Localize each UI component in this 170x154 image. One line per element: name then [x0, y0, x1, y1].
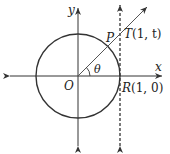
unit-circle-diagram: y x O P θ T(1, t) R(1, 0) — [0, 0, 170, 154]
angle-theta-label: θ — [94, 63, 101, 76]
point-r-label: R(1, 0) — [121, 81, 163, 95]
point-t-label: T(1, t) — [124, 27, 161, 41]
y-axis-label: y — [67, 3, 75, 17]
point-p-label: P — [105, 31, 115, 45]
angle-arc — [87, 68, 91, 77]
svg-text:T(1, t): T(1, t) — [124, 27, 161, 41]
origin-label: O — [64, 79, 74, 93]
svg-text:R(1, 0): R(1, 0) — [121, 81, 163, 95]
x-axis-label: x — [155, 60, 162, 74]
